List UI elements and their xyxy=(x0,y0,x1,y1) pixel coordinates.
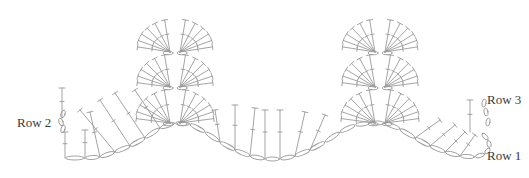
stitch-group xyxy=(58,20,492,161)
row-label-1: Row 1 xyxy=(487,148,521,164)
row-label-3: Row 3 xyxy=(487,92,521,108)
row-label-2: Row 2 xyxy=(17,115,51,131)
crochet-diagram xyxy=(0,0,529,178)
